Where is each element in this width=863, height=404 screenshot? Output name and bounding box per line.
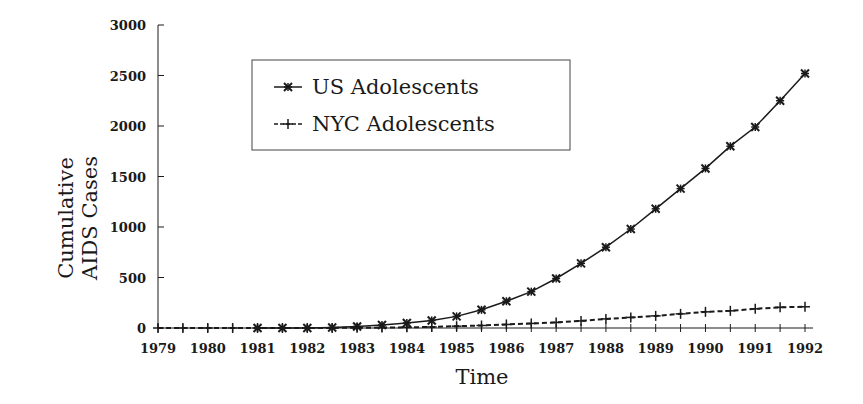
x-tick-label: 1989 — [638, 341, 674, 356]
y-tick-label: 1500 — [110, 170, 146, 185]
line-chart: 050010001500200025003000 197919801981198… — [0, 0, 863, 404]
legend-box — [252, 60, 570, 150]
x-tick-label: 1984 — [389, 341, 425, 356]
y-tick-label: 1000 — [110, 220, 146, 235]
y-tick-label: 0 — [137, 321, 146, 336]
x-tick-label: 1991 — [737, 341, 773, 356]
y-axis-title-line1: Cumulative — [54, 157, 78, 279]
x-tick-label: 1981 — [239, 341, 275, 356]
legend-label-nyc: NYC Adolescents — [312, 112, 495, 136]
y-axis: 050010001500200025003000 — [110, 18, 164, 336]
x-tick-label: 1987 — [538, 341, 574, 356]
x-tick-label: 1983 — [339, 341, 375, 356]
x-tick-label: 1982 — [289, 341, 325, 356]
x-tick-label: 1985 — [439, 341, 475, 356]
x-tick-label: 1990 — [687, 341, 723, 356]
y-tick-label: 2500 — [110, 69, 146, 84]
legend-label-us: US Adolescents — [312, 75, 479, 99]
y-tick-label: 2000 — [110, 119, 146, 134]
y-axis-title-line2: AIDS Cases — [78, 156, 102, 281]
x-tick-label: 1992 — [787, 341, 823, 356]
y-tick-label: 500 — [119, 271, 146, 286]
x-tick-label: 1988 — [588, 341, 624, 356]
x-tick-label: 1980 — [190, 341, 226, 356]
x-tick-label: 1986 — [488, 341, 524, 356]
x-axis-title: Time — [455, 365, 508, 389]
x-tick-label: 1979 — [140, 341, 176, 356]
y-tick-label: 3000 — [110, 18, 146, 33]
legend: US Adolescents NYC Adolescents — [252, 60, 570, 150]
